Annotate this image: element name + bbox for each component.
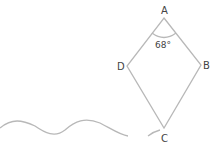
vertex-label-a: A	[161, 5, 168, 16]
angle-label: 68°	[155, 40, 171, 50]
vertex-label-d: D	[117, 61, 125, 72]
vertex-label-c: C	[161, 133, 168, 144]
wavy-line	[0, 120, 128, 136]
vertex-label-b: B	[203, 60, 210, 71]
angle-arc-a	[152, 33, 176, 38]
wavy-line-tail	[148, 130, 160, 136]
kite-diagram: A B C D 68°	[0, 0, 210, 145]
kite-shape	[127, 18, 201, 128]
